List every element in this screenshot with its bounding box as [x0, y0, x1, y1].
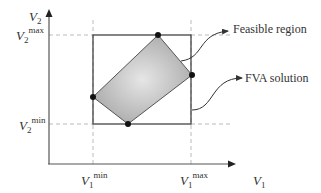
v2-max-label: V2max	[16, 25, 44, 45]
v2-min-label: V2min	[19, 115, 46, 135]
y-axis-arrow-icon	[46, 9, 53, 17]
fva-solution-pointer	[192, 78, 242, 110]
v1-min-label: V1min	[81, 170, 108, 190]
x-axis-label: V1	[253, 173, 265, 190]
feasible-region	[93, 35, 192, 124]
x-axis-arrow-icon	[228, 161, 236, 168]
fva-solution-label: FVA solution	[245, 71, 308, 85]
v1-max-label: V1max	[180, 170, 208, 190]
feasible-region-label: Feasible region	[233, 22, 307, 36]
fva-diagram: V2 V1 V2max V2min V1min V1max Feasible r…	[0, 0, 321, 193]
y-axis-label: V2	[29, 9, 41, 26]
